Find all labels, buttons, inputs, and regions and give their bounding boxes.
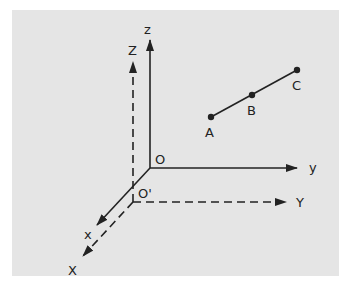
X-axis-label: X [68, 263, 77, 278]
point-a [208, 114, 214, 120]
XYZ-axes [83, 62, 286, 256]
xyz-axes [97, 40, 297, 225]
y-axis-label: y [309, 160, 317, 175]
point-a-label: A [205, 125, 214, 140]
x-axis-label: x [84, 227, 92, 242]
Z-axis-label: Z [128, 43, 137, 58]
origin-O-label: O [155, 152, 165, 167]
point-b [249, 92, 255, 98]
point-b-label: B [247, 103, 256, 118]
point-c [294, 67, 300, 73]
origin-O-prime-label: O' [138, 186, 152, 201]
Y-axis-label: Y [295, 195, 304, 210]
z-axis-label: z [144, 22, 151, 37]
coordinate-diagram: z y x Z Y X O O' A B C [0, 0, 339, 290]
point-c-label: C [292, 78, 301, 93]
